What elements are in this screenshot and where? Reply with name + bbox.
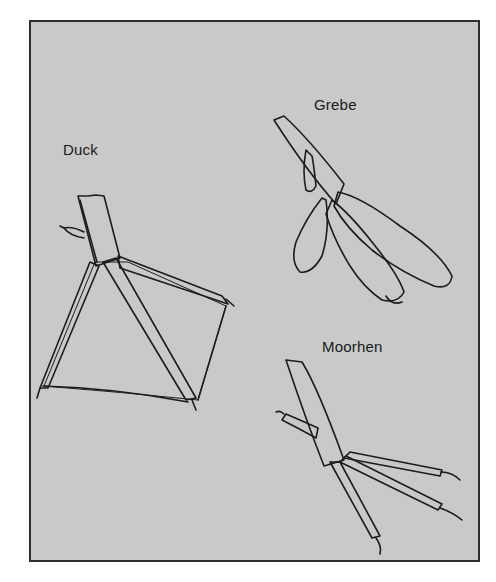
grebe-foot-drawing (274, 116, 452, 303)
moorhen-label: Moorhen (322, 338, 383, 355)
grebe-label: Grebe (314, 96, 357, 113)
moorhen-foot-drawing (276, 360, 462, 554)
duck-foot-drawing (37, 195, 234, 410)
bird-feet-illustration (0, 0, 496, 582)
duck-label: Duck (63, 141, 98, 158)
